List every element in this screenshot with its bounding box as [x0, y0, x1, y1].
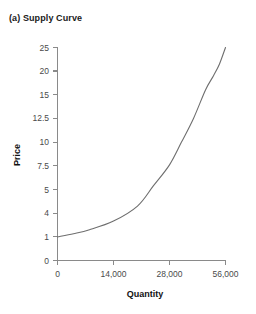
- y-tick-label: 20: [40, 66, 50, 76]
- y-tick-label: 7.5: [37, 161, 49, 171]
- y-tick-label: 15: [40, 90, 50, 100]
- x-axis-tick-labels: 0 14,000 28,000 56,000: [55, 269, 239, 279]
- y-tick-label: 4: [44, 208, 49, 218]
- x-tick-label: 0: [55, 269, 60, 279]
- x-axis-ticks: [58, 261, 226, 266]
- supply-curve-figure: (a) Supply Curve 25 20 15 12.5 10 7.5: [0, 0, 256, 314]
- x-axis-title: Quantity: [127, 289, 164, 299]
- supply-curve-line: [58, 48, 226, 237]
- y-axis-ticks: [53, 48, 58, 261]
- y-axis-title: Price: [12, 144, 22, 166]
- y-axis-tick-labels: 25 20 15 12.5 10 7.5 5 4 1 0: [32, 43, 49, 266]
- y-tick-label: 5: [44, 185, 49, 195]
- y-tick-label: 10: [40, 137, 50, 147]
- chart-plot-area: 25 20 15 12.5 10 7.5 5 4 1 0 0 14,000 28…: [0, 0, 256, 314]
- y-tick-label: 1: [44, 232, 49, 242]
- y-tick-label: 0: [44, 256, 49, 266]
- x-tick-label: 28,000: [157, 269, 183, 279]
- y-tick-label: 25: [40, 43, 50, 53]
- x-tick-label: 56,000: [213, 269, 239, 279]
- y-tick-label: 12.5: [32, 113, 49, 123]
- x-tick-label: 14,000: [101, 269, 127, 279]
